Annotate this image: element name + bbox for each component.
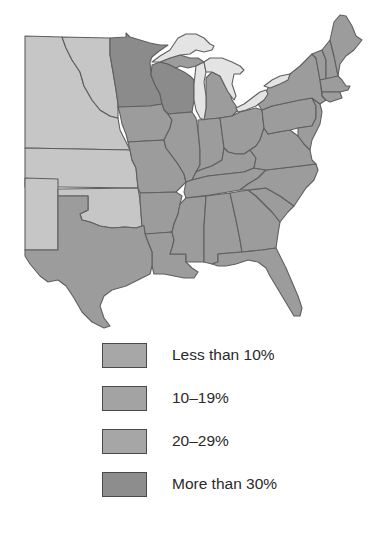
- legend: Less than 10% 10–19% 20–29% More than 30…: [102, 343, 277, 515]
- state-florida: [212, 248, 302, 316]
- legend-swatch: [102, 386, 147, 411]
- legend-label: 20–29%: [172, 431, 229, 451]
- legend-swatch: [102, 472, 147, 497]
- legend-swatch: [102, 343, 147, 368]
- legend-item-less-than-10: Less than 10%: [102, 343, 277, 386]
- state-colorado-newmexico: [25, 178, 58, 250]
- legend-swatch: [102, 429, 147, 454]
- state-iowa: [118, 104, 172, 142]
- legend-label: 10–19%: [172, 388, 229, 408]
- legend-item-more-than-30: More than 30%: [102, 472, 277, 515]
- legend-item-10-19: 10–19%: [102, 386, 277, 429]
- legend-item-20-29: 20–29%: [102, 429, 277, 472]
- legend-label: More than 30%: [172, 474, 277, 494]
- legend-label: Less than 10%: [172, 345, 275, 365]
- choropleth-map: [0, 0, 389, 340]
- lake-michigan: [194, 62, 206, 120]
